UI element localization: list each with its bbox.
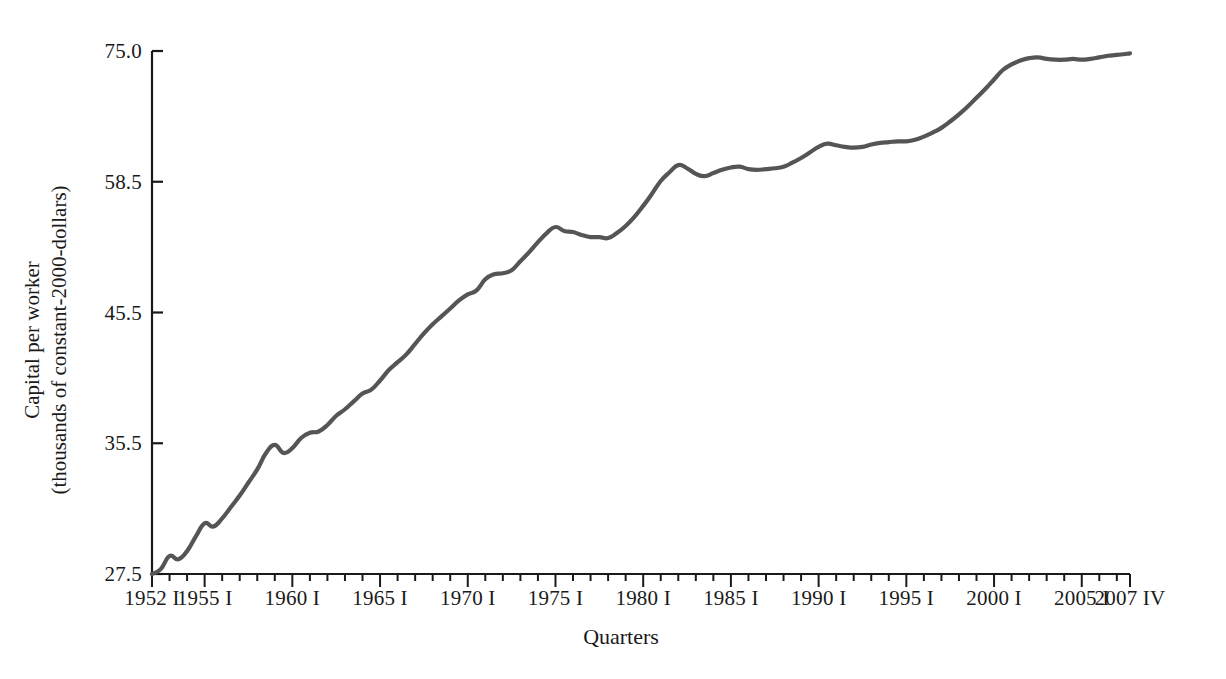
y-axis-title-line-2: (thousands of constant-2000-dollars) (46, 185, 73, 494)
x-axis-tick-label: 1985 I (703, 586, 758, 611)
chart-page: 27.535.545.558.575.0 1952 I1955 I1960 I1… (0, 0, 1226, 679)
y-axis-tick-label: 75.0 (56, 39, 142, 64)
y-axis-title: Capital per worker (thousands of constan… (19, 185, 73, 494)
x-axis-tick-label: 1952 I (124, 586, 179, 611)
line-chart-plot (0, 0, 1226, 679)
x-axis-tick-label: 2007 IV (1095, 586, 1166, 611)
x-axis-tick-label: 2000 I (966, 586, 1021, 611)
x-axis-tick-label: 1980 I (615, 586, 670, 611)
x-axis-tick-label: 1955 I (177, 586, 232, 611)
x-axis-tick-label: 1970 I (440, 586, 495, 611)
y-axis-tick-label: 27.5 (56, 562, 142, 587)
x-axis-title: Quarters (0, 624, 1226, 650)
x-axis-title-text: Quarters (583, 624, 659, 650)
x-axis-tick-label: 1965 I (352, 586, 407, 611)
y-axis-title-line-1: Capital per worker (19, 185, 46, 494)
x-axis-tick-label: 1975 I (528, 586, 583, 611)
x-axis-tick-label: 1990 I (791, 586, 846, 611)
x-axis-tick-label: 1995 I (879, 586, 934, 611)
x-axis-tick-label: 1960 I (265, 586, 320, 611)
chart-background (0, 0, 1226, 679)
